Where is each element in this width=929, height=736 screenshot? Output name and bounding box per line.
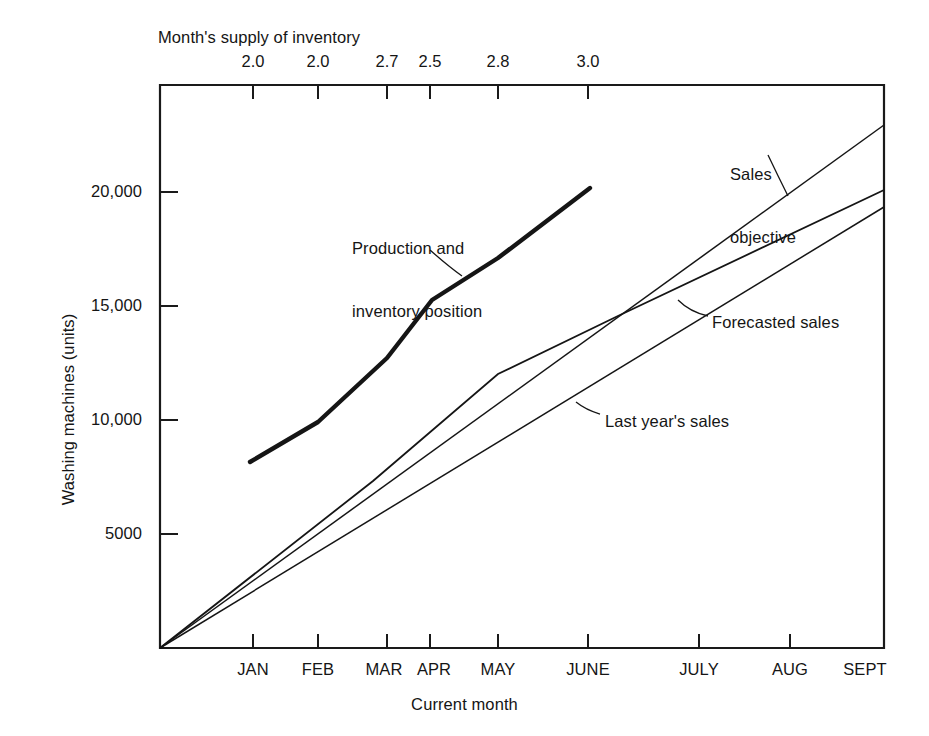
- chart-figure: Month's supply of inventory 2.0 2.0 2.7 …: [0, 0, 929, 736]
- x-axis-tick-label-july: JULY: [668, 660, 730, 679]
- x-axis-tick-label-apr: APR: [403, 660, 465, 679]
- y-axis-tick-label-20000: 20,000: [32, 182, 142, 201]
- x-axis-title: Current month: [0, 695, 929, 714]
- annotation-production-line-1: Production and: [352, 238, 482, 259]
- top-axis-tick-label-1: 2.0: [226, 52, 280, 71]
- x-axis-tick-label-feb: FEB: [287, 660, 349, 679]
- x-axis-tick-label-may: MAY: [467, 660, 529, 679]
- y-axis-tick-label-15000: 15,000: [32, 296, 142, 315]
- top-axis-tick-label-6: 3.0: [561, 52, 615, 71]
- chart-canvas: [0, 0, 929, 736]
- annotation-last-years-sales: Last year's sales: [605, 411, 729, 432]
- annotation-production-line-2: inventory position: [352, 301, 482, 322]
- annotation-sales-objective: Sales objective: [730, 122, 796, 290]
- x-axis-tick-label-jan: JAN: [222, 660, 284, 679]
- annotation-sales-objective-line-2: objective: [730, 227, 796, 248]
- top-axis-ticks: [253, 85, 588, 99]
- top-axis-tick-label-5: 2.8: [471, 52, 525, 71]
- y-axis-ticks: [160, 192, 178, 534]
- x-axis-tick-label-sept: SEPT: [834, 660, 896, 679]
- y-axis-tick-label-5000: 5000: [32, 524, 142, 543]
- y-axis-tick-label-10000: 10,000: [32, 410, 142, 429]
- x-axis-tick-label-aug: AUG: [759, 660, 821, 679]
- bottom-axis-ticks: [253, 634, 790, 648]
- top-axis-title: Month's supply of inventory: [158, 28, 360, 47]
- leader-forecasted: [678, 300, 708, 316]
- leader-lastyear: [576, 402, 600, 414]
- x-axis-tick-label-june: JUNE: [557, 660, 619, 679]
- annotation-production-inventory-position: Production and inventory position: [352, 196, 482, 364]
- top-axis-tick-label-2: 2.0: [291, 52, 345, 71]
- annotation-sales-objective-line-1: Sales: [730, 164, 796, 185]
- top-axis-tick-label-4: 2.5: [403, 52, 457, 71]
- annotation-forecasted-sales: Forecasted sales: [712, 312, 839, 333]
